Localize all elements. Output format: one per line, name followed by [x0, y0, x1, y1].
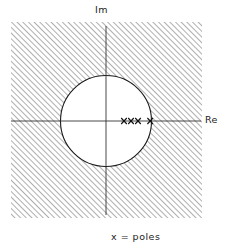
- plot-canvas: [0, 0, 228, 249]
- real-axis-label: Re: [205, 114, 218, 125]
- imaginary-axis-label: Im: [95, 4, 108, 15]
- legend-poles: x = poles: [111, 231, 160, 242]
- hatched-region: [11, 22, 202, 218]
- pole-zero-diagram: Im Re x = poles: [0, 0, 228, 249]
